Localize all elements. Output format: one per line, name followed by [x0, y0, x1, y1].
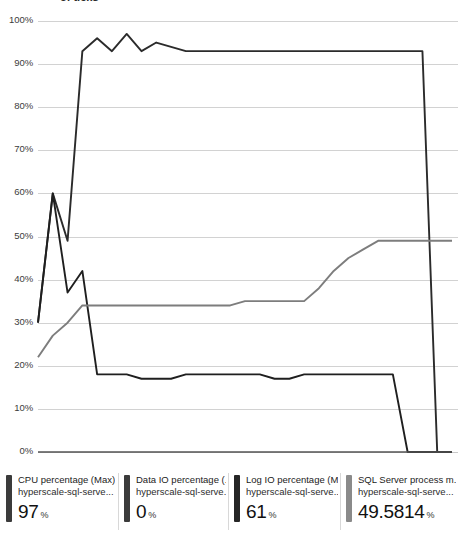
- legend-unit: %: [41, 510, 49, 520]
- legend-metric-name: Data IO percentage (...: [136, 474, 226, 486]
- legend-color-swatch: [124, 475, 130, 522]
- legend-value-row: 49.5814%: [358, 501, 456, 522]
- legend-item[interactable]: Log IO percentage (Max)hyperscale-sql-se…: [228, 468, 340, 535]
- legend-resource-name: hyperscale-sql-serve...: [358, 486, 456, 498]
- chart-series-line: [38, 193, 452, 452]
- legend-metric-name: CPU percentage (Max): [18, 474, 115, 486]
- legend-metric-name: SQL Server process m...: [358, 474, 456, 486]
- legend-value-row: 61%: [246, 501, 338, 522]
- chart-series-line: [38, 34, 452, 452]
- legend-value-row: 97%: [18, 501, 115, 522]
- legend-color-swatch: [346, 475, 352, 522]
- metrics-chart-panel: of ticks 100%90%80%70%60%50%40%30%20%10%…: [0, 0, 458, 465]
- legend-value: 97: [18, 501, 39, 522]
- chart-series-line: [38, 241, 452, 357]
- legend-color-swatch: [234, 475, 240, 522]
- legend-value: 0: [136, 501, 146, 522]
- chart-series-layer: [0, 0, 458, 465]
- chart-plot-area: 100%90%80%70%60%50%40%30%20%10%0%: [0, 0, 458, 465]
- legend-value-row: 0%: [136, 501, 226, 522]
- legend-text-block: CPU percentage (Max)hyperscale-sql-serve…: [18, 474, 115, 522]
- legend-value: 61: [246, 501, 267, 522]
- legend-text-block: Data IO percentage (...hyperscale-sql-se…: [136, 474, 226, 522]
- legend-color-swatch: [6, 475, 12, 522]
- legend-resource-name: hyperscale-sql-serve...: [136, 486, 226, 498]
- legend-unit: %: [427, 510, 435, 520]
- legend-resource-name: hyperscale-sql-serve...: [18, 486, 115, 498]
- legend-text-block: Log IO percentage (Max)hyperscale-sql-se…: [246, 474, 338, 522]
- legend-text-block: SQL Server process m...hyperscale-sql-se…: [358, 474, 456, 522]
- legend-metric-name: Log IO percentage (Max): [246, 474, 338, 486]
- legend-item[interactable]: CPU percentage (Max)hyperscale-sql-serve…: [0, 468, 118, 535]
- legend-item[interactable]: SQL Server process m...hyperscale-sql-se…: [340, 468, 458, 535]
- legend-unit: %: [269, 510, 277, 520]
- legend-item[interactable]: Data IO percentage (...hyperscale-sql-se…: [118, 468, 228, 535]
- chart-legend: CPU percentage (Max)hyperscale-sql-serve…: [0, 468, 458, 535]
- legend-unit: %: [148, 510, 156, 520]
- legend-resource-name: hyperscale-sql-serve...: [246, 486, 338, 498]
- legend-value: 49.5814: [358, 501, 425, 522]
